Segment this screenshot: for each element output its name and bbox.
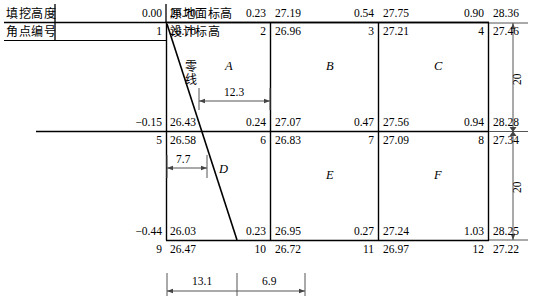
corner-number: 1 — [104, 26, 162, 38]
drawing-linework — [0, 0, 544, 306]
dimension-right-lower: 20 — [512, 182, 524, 194]
cut-fill-value: −0.15 — [104, 117, 162, 129]
ground-elevation-value: 27.56 — [383, 117, 409, 129]
cut-fill-value: 0.00 — [104, 8, 162, 20]
design-elevation-value: 27.34 — [493, 135, 519, 147]
design-elevation-value: 26.97 — [383, 244, 409, 256]
ground-elevation-value: 27.07 — [275, 117, 301, 129]
dimension-7-7: 7.7 — [176, 154, 190, 166]
cut-fill-value: 0.23 — [208, 8, 266, 20]
label-cut-fill-height: 填挖高度 — [6, 8, 56, 20]
ground-elevation-value: 27.19 — [275, 8, 301, 20]
design-elevation-value: 26.83 — [275, 135, 301, 147]
corner-number: 3 — [316, 26, 374, 38]
cell-label-A: A — [225, 60, 233, 73]
ground-elevation-value: 26.43 — [170, 117, 196, 129]
design-elevation-value: 27.21 — [383, 26, 409, 38]
design-elevation-value: 27.09 — [383, 135, 409, 147]
ground-elevation-value: 28.36 — [493, 8, 519, 20]
corner-number: 8 — [426, 135, 484, 147]
cut-fill-value: 0.54 — [316, 8, 374, 20]
corner-number: 12 — [426, 244, 484, 256]
cut-fill-value: 0.27 — [316, 226, 374, 238]
corner-number: 11 — [316, 244, 374, 256]
ground-elevation-value: 27.24 — [383, 226, 409, 238]
cell-label-C: C — [434, 60, 442, 73]
ground-elevation-value: 26.95 — [275, 226, 301, 238]
cut-fill-value: 0.90 — [426, 8, 484, 20]
corner-number: 10 — [208, 244, 266, 256]
design-elevation-value: 26.72 — [275, 244, 301, 256]
dimension-13-1: 13.1 — [192, 276, 212, 288]
corner-number: 5 — [104, 135, 162, 147]
ground-elevation-value: 26.03 — [170, 226, 196, 238]
ground-elevation-value: 26.70 — [170, 8, 196, 20]
earthwork-grid-drawing: 填挖高度 角点编号 原地面标高 设计标高 0.00 26.70 1 26.70 … — [0, 0, 544, 306]
dimension-6-9: 6.9 — [262, 276, 276, 288]
cell-label-B: B — [326, 60, 334, 73]
corner-number: 6 — [208, 135, 266, 147]
cut-fill-value: 0.24 — [208, 117, 266, 129]
ground-elevation-value: 28.28 — [493, 117, 519, 129]
dimension-12-3: 12.3 — [224, 87, 244, 99]
design-elevation-value: 27.46 — [493, 26, 519, 38]
dimension-right-upper: 20 — [512, 74, 524, 86]
cell-label-E: E — [326, 169, 334, 182]
design-elevation-value: 26.47 — [170, 244, 196, 256]
zero-line-label: 零线 — [183, 60, 195, 85]
cut-fill-value: −0.44 — [104, 226, 162, 238]
cut-fill-value: 0.23 — [208, 226, 266, 238]
ground-elevation-value: 28.25 — [493, 226, 519, 238]
cut-fill-value: 1.03 — [426, 226, 484, 238]
corner-number: 2 — [208, 26, 266, 38]
cut-fill-value: 0.47 — [316, 117, 374, 129]
cell-label-F: F — [434, 169, 442, 182]
design-elevation-value: 26.70 — [170, 26, 196, 38]
label-corner-number: 角点编号 — [6, 26, 56, 38]
cut-fill-value: 0.94 — [426, 117, 484, 129]
design-elevation-value: 26.58 — [170, 135, 196, 147]
corner-number: 4 — [426, 26, 484, 38]
cell-label-D: D — [219, 163, 228, 176]
ground-elevation-value: 27.75 — [383, 8, 409, 20]
corner-number: 7 — [316, 135, 374, 147]
corner-number: 9 — [104, 244, 162, 256]
design-elevation-value: 26.96 — [275, 26, 301, 38]
design-elevation-value: 27.22 — [493, 244, 519, 256]
